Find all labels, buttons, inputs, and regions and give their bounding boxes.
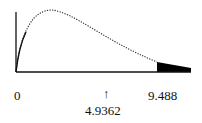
rejection-region [157,62,191,72]
x-tick-critical-value: 9.488 [148,89,177,102]
density-curve [16,10,157,72]
x-tick-origin: 0 [14,89,21,102]
test-statistic-label: 4.9362 [85,104,121,117]
density-curve-start [16,32,26,72]
arrow-up-icon: ↑ [103,87,110,100]
